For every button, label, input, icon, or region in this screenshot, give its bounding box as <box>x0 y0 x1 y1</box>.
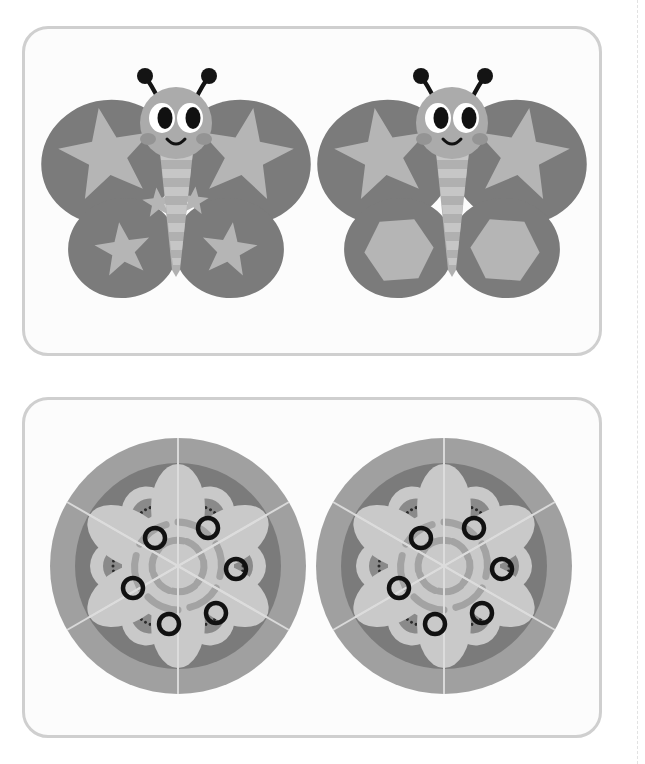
activity-sheet-page <box>0 0 645 764</box>
cut-guide-line <box>637 0 638 764</box>
cheek-right <box>472 133 488 145</box>
mandala-right[interactable] <box>311 428 577 708</box>
butterflies-stage <box>25 29 599 353</box>
antenna-right-knob <box>201 68 217 84</box>
mandalas-panel <box>22 397 602 738</box>
head-group <box>140 87 212 159</box>
butterfly-left[interactable] <box>31 65 321 315</box>
antenna-left-knob <box>413 68 429 84</box>
eye-pupil-left <box>434 107 449 129</box>
mandalas-stage <box>25 400 599 735</box>
eye-pupil-right <box>462 107 477 129</box>
head-group <box>416 87 488 159</box>
butterfly-right[interactable] <box>307 65 597 315</box>
cheek-right <box>196 133 212 145</box>
eye-pupil-right <box>186 107 201 129</box>
cheek-left <box>416 133 432 145</box>
mandala-left[interactable] <box>45 428 311 708</box>
antenna-left-knob <box>137 68 153 84</box>
butterflies-panel <box>22 26 602 356</box>
eye-pupil-left <box>158 107 173 129</box>
cheek-left <box>140 133 156 145</box>
antenna-right-knob <box>477 68 493 84</box>
